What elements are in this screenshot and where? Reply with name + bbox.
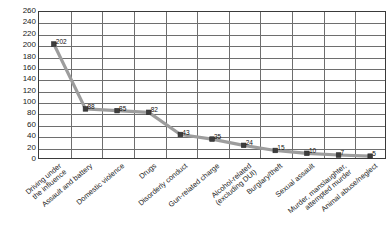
x-axis: Driving under the influenceAssault and b…	[0, 160, 391, 234]
data-point-label: 24	[246, 139, 253, 146]
series-line-group	[38, 11, 386, 159]
data-point-label: 88	[87, 103, 94, 110]
data-point-label: 15	[277, 144, 284, 151]
data-point-label: 85	[119, 105, 126, 112]
y-axis: 020406080100120140160180200220240260	[0, 11, 36, 159]
y-axis-tick-label: 200	[2, 41, 36, 49]
y-axis-tick-label: 100	[2, 98, 36, 106]
data-point-label: 7	[341, 149, 345, 156]
data-point-label: 202	[56, 38, 67, 45]
line-chart: 020406080100120140160180200220240260 202…	[0, 0, 391, 234]
y-axis-tick-label: 240	[2, 18, 36, 26]
data-point-label: 10	[309, 147, 316, 154]
data-point-label: 82	[151, 106, 158, 113]
y-axis-tick-label: 40	[2, 132, 36, 140]
data-point-label: 35	[214, 133, 221, 140]
y-axis-tick-label: 260	[2, 7, 36, 15]
y-axis-tick-label: 120	[2, 87, 36, 95]
y-axis-tick-label: 140	[2, 75, 36, 83]
y-axis-tick-label: 60	[2, 121, 36, 129]
y-axis-tick-label: 160	[2, 64, 36, 72]
y-axis-tick-label: 80	[2, 109, 36, 117]
y-axis-tick-label: 180	[2, 53, 36, 61]
y-axis-tick-label: 220	[2, 30, 36, 38]
y-axis-tick-label: 20	[2, 144, 36, 152]
data-point-label: 43	[182, 129, 189, 136]
data-point-label: 5	[372, 150, 376, 157]
